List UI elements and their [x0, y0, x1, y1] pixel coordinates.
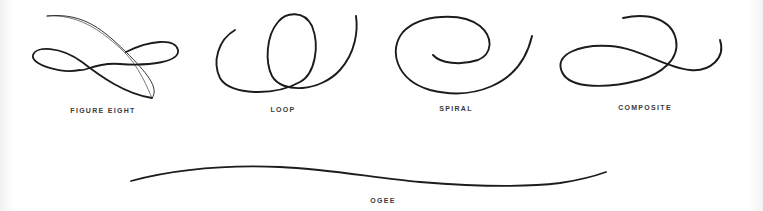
label-ogee: OGEE [370, 197, 395, 204]
label-loop: LOOP [270, 106, 295, 113]
label-composite: COMPOSITE [618, 104, 672, 111]
figure-eight-flourish [33, 15, 178, 98]
label-figure-eight: FIGURE EIGHT [70, 107, 135, 114]
label-spiral: SPIRAL [439, 105, 472, 112]
ogee-flourish [131, 166, 606, 186]
spiral-flourish [396, 17, 532, 93]
composite-flourish [561, 16, 722, 86]
loop-flourish [216, 14, 356, 92]
